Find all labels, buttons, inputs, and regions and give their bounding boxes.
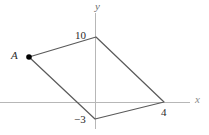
point-a-marker <box>26 54 32 60</box>
coordinate-plane-graphic <box>0 0 209 135</box>
figure-canvas: y x 10 −3 4 A <box>0 0 209 135</box>
x-axis-label: x <box>195 94 200 105</box>
y-tick-label-neg3: −3 <box>74 114 86 125</box>
polygon-shape <box>29 37 164 119</box>
y-tick-label-10: 10 <box>75 30 86 41</box>
y-axis-label: y <box>95 1 100 12</box>
x-tick-label-4: 4 <box>161 107 167 118</box>
point-a-label: A <box>11 50 18 61</box>
